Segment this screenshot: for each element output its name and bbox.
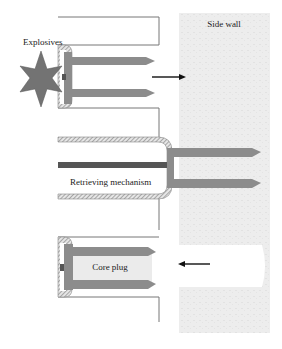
core-cavity xyxy=(179,245,265,287)
sidewall-coring-diagram: Side wall Explosives xyxy=(0,0,282,349)
core-plug-label: Core plug xyxy=(92,262,128,272)
side-wall-label: Side wall xyxy=(207,19,241,29)
retrieving-rod xyxy=(58,162,169,168)
arrow-right-icon xyxy=(152,74,186,80)
retrieving-mechanism-label: Retrieving mechanism xyxy=(70,177,151,187)
prongs-firing xyxy=(64,52,155,104)
explosives-label: Explosives xyxy=(23,37,63,47)
stage-firing: Explosives xyxy=(20,17,186,125)
explosion-star-icon xyxy=(20,51,62,107)
side-wall: Side wall xyxy=(179,13,270,333)
